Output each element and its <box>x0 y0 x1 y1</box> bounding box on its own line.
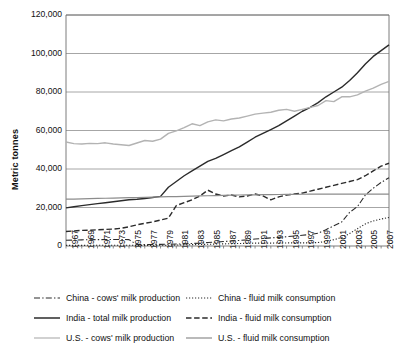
legend-line-swatch <box>186 293 212 303</box>
legend-line-swatch <box>34 333 60 343</box>
series-line <box>66 163 389 231</box>
legend-item[interactable]: U.S. - fluid milk consumption <box>186 328 398 347</box>
legend-label: India - total milk production <box>66 313 171 323</box>
legend-item[interactable]: U.S. - cows' milk production <box>0 328 186 347</box>
legend-label: China - cows' milk production <box>66 293 180 303</box>
milk-production-line-chart: Metric tonnes 020,00040,00060,00080,0001… <box>0 0 398 349</box>
legend-label: U.S. - fluid milk consumption <box>218 333 329 343</box>
legend-line-swatch <box>186 333 212 343</box>
series-line <box>66 194 389 199</box>
legend-label: U.S. - cows' milk production <box>66 333 174 343</box>
legend-label: India - fluid milk consumption <box>218 313 331 323</box>
legend-item[interactable]: India - total milk production <box>0 308 186 327</box>
legend-line-swatch <box>34 293 60 303</box>
legend-item[interactable]: India - fluid milk consumption <box>186 308 398 327</box>
series-line <box>66 81 389 145</box>
series-line <box>66 218 389 246</box>
legend-row: U.S. - cows' milk productionU.S. - fluid… <box>0 328 398 347</box>
legend-row: China - cows' milk productionChina - flu… <box>0 288 398 307</box>
legend-line-swatch <box>34 313 60 323</box>
legend-item[interactable]: China - cows' milk production <box>0 288 186 307</box>
chart-legend: China - cows' milk productionChina - flu… <box>0 288 398 349</box>
legend-label: China - fluid milk consumption <box>218 293 335 303</box>
series-line <box>66 178 389 245</box>
legend-item[interactable]: China - fluid milk consumption <box>186 288 398 307</box>
legend-line-swatch <box>186 313 212 323</box>
series-line <box>66 45 389 208</box>
legend-row: India - total milk productionIndia - flu… <box>0 308 398 327</box>
